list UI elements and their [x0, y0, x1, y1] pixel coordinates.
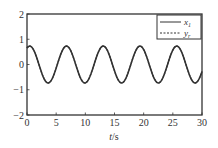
series-line-yr: [27, 46, 202, 83]
x-tick-label: 20: [139, 117, 149, 128]
x-tick-label: 25: [168, 117, 178, 128]
y-tick-label: 0: [19, 59, 24, 70]
y-tick-label: 2: [19, 9, 24, 20]
x-tick-label: 0: [25, 117, 30, 128]
x-tick-label: 15: [110, 117, 120, 128]
y-tick-label: 1: [19, 34, 24, 45]
y-tick-label: −1: [13, 84, 24, 95]
legend-box: [157, 15, 201, 39]
chart-svg: 051015202530−2−1012 x1 yr t/s: [0, 0, 218, 148]
line-chart: 051015202530−2−1012 x1 yr t/s: [0, 0, 218, 148]
x-tick-label: 30: [197, 117, 207, 128]
legend: x1 yr: [157, 15, 201, 39]
x-axis-label: t/s: [109, 131, 119, 142]
x-tick-label: 5: [54, 117, 59, 128]
series-layer: [27, 46, 202, 83]
x-tick-label: 10: [80, 117, 90, 128]
y-tick-label: −2: [13, 110, 24, 121]
